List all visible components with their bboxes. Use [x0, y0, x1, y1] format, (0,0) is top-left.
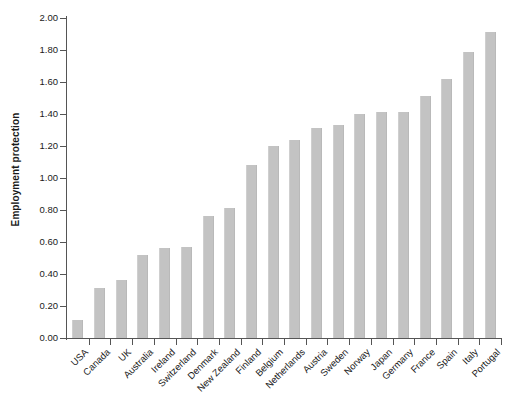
bar: [159, 248, 170, 338]
bar: [246, 165, 257, 338]
x-axis-label: Portugal: [470, 347, 502, 379]
x-axis-label: Belgium: [254, 347, 285, 378]
y-axis-tick: [60, 114, 66, 115]
y-axis-tick-label-text: 1.00: [28, 173, 58, 183]
x-axis-tick: [219, 339, 220, 345]
x-axis-label: UK: [117, 347, 133, 363]
x-axis-label: Canada: [81, 347, 111, 377]
x-axis-label: Italy: [461, 347, 480, 366]
x-axis-label: New Zealand: [195, 347, 241, 393]
x-axis-tick: [89, 339, 90, 345]
bar: [420, 96, 431, 338]
bar: [268, 146, 279, 338]
y-axis-tick-label: 1.00: [20, 173, 58, 183]
y-axis-tick: [60, 338, 66, 339]
y-axis-tick: [60, 50, 66, 51]
y-axis-tick: [60, 82, 66, 83]
y-axis-tick-label: 2.00: [20, 13, 58, 23]
bar: [376, 112, 387, 338]
y-axis-tick-label-text: 0.60: [28, 237, 58, 247]
x-axis-label: USA: [69, 347, 90, 368]
bar: [485, 32, 496, 338]
y-axis-tick-label-text: 1.60: [28, 77, 58, 87]
y-axis-tick-label-text: 0.20: [28, 301, 58, 311]
x-axis-tick: [241, 339, 242, 345]
x-axis-label: Sweden: [319, 347, 350, 378]
x-axis-label: Austria: [301, 347, 329, 375]
x-axis-label: Norway: [342, 347, 371, 376]
bar: [333, 125, 344, 338]
y-axis-tick-label: 0.60: [20, 237, 58, 247]
bars-container: [67, 18, 503, 338]
x-axis-tick: [349, 339, 350, 345]
x-axis-tick: [414, 339, 415, 345]
x-axis-tick: [501, 339, 502, 345]
y-axis-tick-label: 0.00: [20, 333, 58, 343]
y-axis-tick-label-text: 0.40: [28, 269, 58, 279]
x-axis-label: Australia: [122, 347, 155, 380]
x-axis-tick: [154, 339, 155, 345]
employment-protection-bar-chart: Employment protection 0.000.200.400.600.…: [0, 0, 509, 415]
y-axis-tick-label: 0.80: [20, 205, 58, 215]
x-axis-tick: [458, 339, 459, 345]
x-axis-label: Ireland: [149, 347, 176, 374]
bar: [398, 112, 409, 338]
y-axis-tick-label-text: 1.40: [28, 109, 58, 119]
bar: [137, 255, 148, 338]
x-axis-tick: [262, 339, 263, 345]
y-axis-tick: [60, 306, 66, 307]
y-axis-tick: [60, 178, 66, 179]
x-axis-tick: [132, 339, 133, 345]
bar: [181, 247, 192, 338]
bar: [203, 216, 214, 338]
x-axis-label: Spain: [435, 347, 459, 371]
y-axis-tick-label-text: 1.80: [28, 45, 58, 55]
bar: [289, 140, 300, 338]
x-axis-tick: [110, 339, 111, 345]
bar: [354, 114, 365, 338]
x-axis-label: Germany: [381, 347, 415, 381]
y-axis-tick-label: 1.60: [20, 77, 58, 87]
x-axis-label: Finland: [234, 347, 263, 376]
y-axis-tick: [60, 274, 66, 275]
y-axis-tick: [60, 146, 66, 147]
x-axis-tick: [176, 339, 177, 345]
bar: [72, 320, 83, 338]
y-axis-tick-label: 1.40: [20, 109, 58, 119]
y-axis-tick: [60, 242, 66, 243]
y-axis-tick-label: 1.20: [20, 141, 58, 151]
x-axis-tick: [197, 339, 198, 345]
x-axis-tick: [284, 339, 285, 345]
x-axis-label: Denmark: [186, 347, 220, 381]
x-axis-label: Switzerland: [157, 347, 198, 388]
y-axis-tick-label: 1.80: [20, 45, 58, 55]
y-axis-tick-label-text: 0.80: [28, 205, 58, 215]
y-axis-tick-label-text: 1.20: [28, 141, 58, 151]
y-axis-tick-label: 0.40: [20, 269, 58, 279]
bar: [441, 79, 452, 338]
y-axis-tick-label-text: 2.00: [28, 13, 58, 23]
bar: [224, 208, 235, 338]
y-axis-tick: [60, 18, 66, 19]
x-axis-label: Japan: [368, 347, 393, 372]
x-axis-tick: [393, 339, 394, 345]
x-axis-label: France: [409, 347, 437, 375]
bar: [94, 288, 105, 338]
x-axis-tick: [436, 339, 437, 345]
x-axis-tick: [371, 339, 372, 345]
x-axis-label: Netherlands: [264, 347, 307, 390]
bar: [116, 280, 127, 338]
y-axis-tick-label-text: 0.00: [28, 333, 58, 343]
y-axis-tick-label: 0.20: [20, 301, 58, 311]
y-axis-tick: [60, 210, 66, 211]
bar: [311, 128, 322, 338]
bar: [463, 52, 474, 338]
x-axis-tick: [479, 339, 480, 345]
x-axis-tick: [327, 339, 328, 345]
x-axis-tick: [306, 339, 307, 345]
